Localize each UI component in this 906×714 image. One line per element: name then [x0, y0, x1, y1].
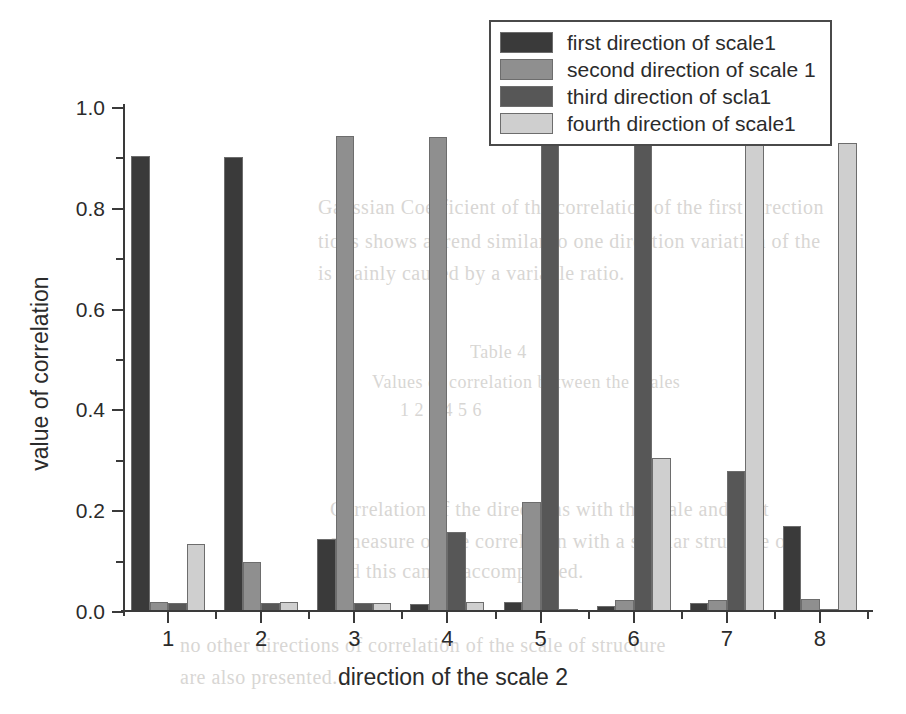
y-axis-tick-label: 1.0	[76, 96, 105, 120]
x-axis-tick	[819, 612, 821, 623]
bar	[838, 143, 857, 612]
bar	[652, 458, 671, 612]
x-axis-tick-label: 7	[721, 626, 733, 652]
bar	[634, 131, 653, 612]
bar	[317, 539, 336, 612]
legend-item: second direction of scale 1	[500, 56, 816, 83]
x-axis-tick	[446, 612, 448, 623]
x-axis-tick-minor	[588, 612, 590, 619]
x-axis-tick-label: 4	[441, 626, 453, 652]
x-axis-tick-label: 8	[814, 626, 826, 652]
bar-chart: 0.00.20.40.60.81.0 12345678 value of cor…	[0, 0, 906, 714]
bar	[541, 138, 560, 612]
bar	[745, 123, 764, 612]
x-axis-line	[121, 610, 873, 612]
bar	[783, 526, 802, 612]
x-axis-tick-label: 3	[348, 626, 360, 652]
x-axis-tick	[726, 612, 728, 623]
bar-series-layer	[123, 108, 868, 612]
legend-swatch-icon	[500, 86, 553, 107]
x-axis-tick	[167, 612, 169, 623]
y-axis-tick-minor	[116, 258, 123, 260]
bar	[429, 137, 448, 612]
y-axis-tick-major	[112, 107, 123, 109]
legend-item-label: fourth direction of scale1	[567, 112, 796, 136]
x-axis-tick	[540, 612, 542, 623]
x-axis-tick-minor	[401, 612, 403, 619]
y-axis-tick-major	[112, 409, 123, 411]
x-axis-tick-label: 5	[534, 626, 546, 652]
x-axis-tick-minor	[215, 612, 217, 619]
y-axis-ticks: 0.00.20.40.60.81.0	[0, 104, 123, 612]
legend-swatch-icon	[500, 32, 553, 53]
legend-swatch-icon	[500, 113, 553, 134]
y-axis-title: value of correlation	[27, 234, 54, 514]
x-axis-tick-label: 1	[162, 626, 174, 652]
y-axis-tick-minor	[116, 460, 123, 462]
x-axis-tick	[353, 612, 355, 623]
x-axis-tick	[260, 612, 262, 623]
legend-item: first direction of scale1	[500, 29, 816, 56]
x-axis-tick-label: 2	[255, 626, 267, 652]
bar	[336, 136, 355, 612]
x-axis-tick-minor	[495, 612, 497, 619]
y-axis-tick-major	[112, 208, 123, 210]
x-axis-tick-minor	[681, 612, 683, 619]
y-axis-tick-label: 0.2	[76, 499, 105, 523]
legend-item-label: second direction of scale 1	[567, 58, 816, 82]
x-axis-tick-minor	[308, 612, 310, 619]
legend-item-label: third direction of scla1	[567, 85, 771, 109]
y-axis-tick-minor	[116, 561, 123, 563]
legend-item: third direction of scla1	[500, 83, 816, 110]
legend-item: fourth direction of scale1	[500, 110, 816, 137]
y-axis-line	[123, 104, 125, 616]
y-axis-tick-minor	[116, 157, 123, 159]
y-axis-tick-minor	[116, 359, 123, 361]
y-axis-tick-major	[112, 309, 123, 311]
bar	[447, 532, 466, 612]
y-axis-tick-label: 0.8	[76, 197, 105, 221]
y-axis-tick-major	[112, 510, 123, 512]
plot-area	[123, 108, 868, 612]
bar	[522, 502, 541, 612]
x-axis-tick-minor	[774, 612, 776, 619]
x-axis-tick	[633, 612, 635, 623]
bar	[727, 471, 746, 612]
y-axis-tick-label: 0.0	[76, 600, 105, 624]
legend-item-label: first direction of scale1	[567, 31, 776, 55]
bar	[187, 544, 206, 612]
x-axis-tick-minor	[867, 612, 869, 619]
legend-swatch-icon	[500, 59, 553, 80]
bar	[243, 562, 262, 612]
bar	[224, 157, 243, 612]
x-axis-tick-label: 6	[628, 626, 640, 652]
bar	[131, 156, 150, 612]
y-axis-tick-label: 0.6	[76, 298, 105, 322]
chart-legend: first direction of scale1second directio…	[489, 20, 832, 146]
x-axis-title: direction of the scale 2	[0, 664, 906, 691]
x-axis-ticks: 12345678	[123, 612, 871, 662]
y-axis-tick-label: 0.4	[76, 398, 105, 422]
